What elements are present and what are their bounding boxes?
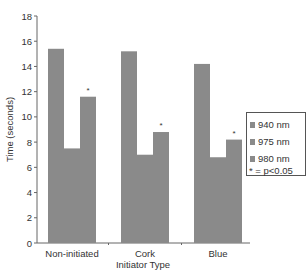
significance-star: * [232, 129, 235, 138]
legend-significance-note: * = p<0.05 [249, 165, 293, 176]
bar-980nm-blue [226, 140, 242, 243]
x-axis-label: Initiator Type [116, 259, 170, 270]
bar-975nm-noninitiated [64, 148, 80, 243]
bar-980nm-cork [153, 132, 169, 243]
x-tick-label: Non-initiated [45, 248, 98, 259]
bar-975nm-blue [210, 157, 226, 243]
legend-item-940nm: 940 nm [250, 119, 290, 130]
bar-chart: 024681012141618*Non-initiated*Cork*BlueI… [0, 0, 306, 270]
legend-item-975nm: 975 nm [250, 136, 290, 147]
legend-swatch-icon [250, 122, 255, 128]
bar-975nm-cork [137, 155, 153, 243]
legend-swatch-icon [250, 139, 255, 145]
legend-swatch-icon [250, 156, 255, 162]
legend-label: 975 nm [258, 136, 290, 147]
y-tick-label: 0 [27, 238, 32, 249]
bar-940nm-blue [194, 64, 210, 243]
bar-940nm-noninitiated [48, 49, 64, 243]
y-tick-label: 18 [21, 11, 32, 22]
y-tick-label: 16 [21, 36, 32, 47]
chart-legend: 940 nm 975 nm 980 nm * = p<0.05 [246, 112, 306, 176]
x-tick-label: Blue [208, 248, 227, 259]
y-tick-label: 6 [27, 162, 32, 173]
significance-star: * [159, 121, 162, 130]
y-tick-label: 2 [27, 212, 32, 223]
bar-940nm-cork [121, 51, 137, 243]
significance-star: * [86, 86, 89, 95]
y-axis-label: Time (seconds) [4, 97, 15, 162]
legend-item-980nm: 980 nm [250, 153, 290, 164]
y-tick-label: 14 [21, 61, 32, 72]
y-tick-label: 10 [21, 111, 32, 122]
bar-980nm-noninitiated [80, 97, 96, 243]
legend-label: 980 nm [258, 153, 290, 164]
legend-label: 940 nm [258, 119, 290, 130]
x-tick-label: Cork [135, 248, 155, 259]
y-tick-label: 12 [21, 86, 32, 97]
y-tick-label: 4 [27, 187, 32, 198]
y-tick-label: 8 [27, 137, 32, 148]
